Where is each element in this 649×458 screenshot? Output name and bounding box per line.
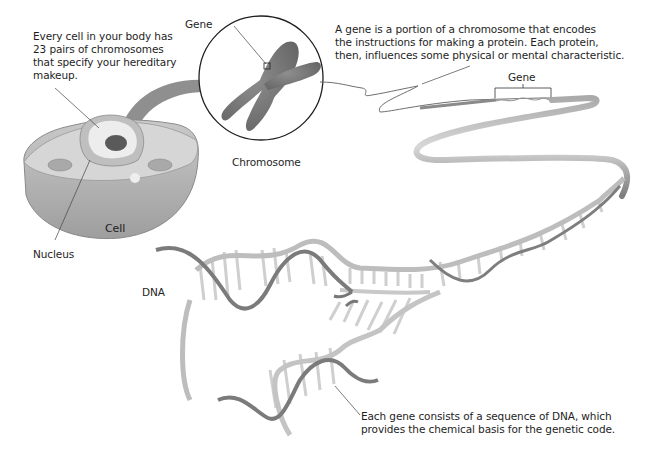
cell-illustration (24, 115, 199, 239)
gene-bracket-label: Gene (508, 71, 535, 84)
gene-description-label: A gene is a portion of a chromosome that… (335, 23, 624, 62)
gene-bracket (495, 84, 551, 98)
gene-description-leader-line (422, 66, 470, 84)
chromatin-tube (417, 98, 628, 196)
cell-description-leader-line (55, 88, 99, 128)
chromosome-label: Chromosome (232, 156, 301, 169)
dna-helix (156, 178, 624, 435)
nucleus-label: Nucleus (33, 248, 74, 261)
cell-description-label: Every cell in your body has 23 pairs of … (33, 30, 176, 82)
dna-label: DNA (142, 286, 165, 299)
dna-description-label: Each gene consists of a sequence of DNA,… (361, 410, 615, 436)
gene-top-label: Gene (185, 18, 212, 31)
chromatin-thread (320, 82, 590, 112)
chromosome-magnifier (199, 16, 323, 140)
cell-label: Cell (105, 222, 125, 235)
dna-description-leader-line (335, 386, 360, 415)
